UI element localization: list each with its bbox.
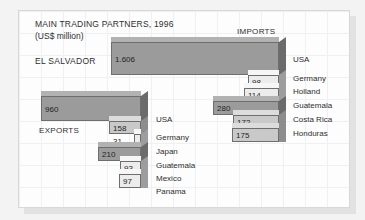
bar-side-face	[141, 174, 148, 188]
exports-label-panama: Panama	[156, 187, 186, 196]
bar-value-label: 97	[123, 177, 132, 186]
bar-value-label: 1.606	[115, 54, 135, 63]
imports-label-honduras: Honduras	[293, 129, 328, 138]
exports-caption: EXPORTS	[39, 126, 79, 135]
page-title: MAIN TRADING PARTNERS, 1996	[35, 19, 174, 29]
bar-value-label: 960	[45, 104, 58, 113]
bar-value-label: 158	[113, 123, 126, 132]
bar-side-face	[279, 128, 286, 142]
imports-label-usa: USA	[293, 55, 309, 64]
exports-bar-panama: 97	[119, 174, 141, 188]
exports-label-germany: Germany	[156, 133, 189, 142]
exports-label-japan: Japan	[156, 147, 178, 156]
bar-value-label: 280	[217, 104, 230, 113]
imports-label-costa-rica: Costa Rica	[293, 115, 332, 124]
imports-label-guatemala: Guatemala	[293, 101, 332, 110]
imports-label-holland: Holland	[293, 87, 320, 96]
chart-canvas: MAIN TRADING PARTNERS, 1996 (US$ million…	[0, 0, 365, 220]
units-label: (US$ million)	[35, 31, 84, 41]
country-label: EL SALVADOR	[35, 56, 96, 66]
exports-label-guatemala: Guatemala	[156, 161, 195, 170]
imports-bar-honduras: 175	[232, 128, 279, 142]
exports-label-usa: USA	[156, 115, 172, 124]
imports-caption: IMPORTS	[237, 27, 275, 36]
imports-label-germany: Germany	[293, 74, 326, 83]
exports-label-mexico: Mexico	[156, 174, 181, 183]
bar-value-label: 210	[102, 150, 115, 159]
bar-value-label: 175	[236, 131, 249, 140]
chart-panel: MAIN TRADING PARTNERS, 1996 (US$ million…	[18, 10, 350, 208]
